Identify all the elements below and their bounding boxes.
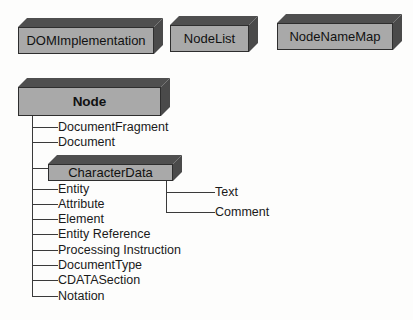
branch-line-entityreference xyxy=(32,234,58,235)
class-label: DOMImplementation xyxy=(26,33,145,48)
branch-line-documentfragment xyxy=(32,127,58,128)
leaf-cdatasection[interactable]: CDATASection xyxy=(58,274,140,287)
box-front-face: DOMImplementation xyxy=(18,27,154,54)
branch-line-document xyxy=(32,142,58,143)
branch-line-notation xyxy=(32,296,58,297)
class-box-nodenamemap[interactable]: NodeNameMap xyxy=(277,14,402,50)
leaf-documentfragment[interactable]: DocumentFragment xyxy=(58,121,168,134)
box-front-face: CharacterData xyxy=(48,164,173,181)
leaf-document[interactable]: Document xyxy=(58,136,115,149)
diagram-canvas: DOMImplementation NodeList NodeNameMap N… xyxy=(0,0,413,320)
class-label: NodeList xyxy=(184,31,235,46)
class-box-characterdata[interactable]: CharacterData xyxy=(48,155,182,181)
characterdata-trunk-line xyxy=(166,181,167,213)
leaf-comment[interactable]: Comment xyxy=(215,206,269,219)
branch-line-element xyxy=(32,219,58,220)
branch-line-processinginstruction xyxy=(32,250,58,251)
leaf-text[interactable]: Text xyxy=(215,186,238,199)
leaf-attribute[interactable]: Attribute xyxy=(58,198,105,211)
branch-line-documenttype xyxy=(32,265,58,266)
class-label: Node xyxy=(73,94,107,109)
class-label: CharacterData xyxy=(68,165,153,180)
class-box-node[interactable]: Node xyxy=(18,78,170,116)
box-front-face: NodeList xyxy=(170,25,249,52)
leaf-documenttype[interactable]: DocumentType xyxy=(58,259,142,272)
leaf-element[interactable]: Element xyxy=(58,213,104,226)
branch-line-cdatasection xyxy=(32,280,58,281)
branch-line-entity xyxy=(32,189,58,190)
box-front-face: NodeNameMap xyxy=(277,23,393,50)
class-label: NodeNameMap xyxy=(289,29,380,44)
class-box-domimplementation[interactable]: DOMImplementation xyxy=(18,18,163,54)
class-box-nodelist[interactable]: NodeList xyxy=(170,16,258,52)
box-front-face: Node xyxy=(18,87,161,116)
branch-line-attribute xyxy=(32,204,58,205)
leaf-entity-reference[interactable]: Entity Reference xyxy=(58,228,150,241)
leaf-processing-instruction[interactable]: Processing Instruction xyxy=(58,244,181,257)
branch-line-text xyxy=(166,192,215,193)
branch-line-comment xyxy=(166,212,215,213)
node-trunk-line xyxy=(32,116,33,297)
leaf-notation[interactable]: Notation xyxy=(58,290,105,303)
leaf-entity[interactable]: Entity xyxy=(58,183,89,196)
